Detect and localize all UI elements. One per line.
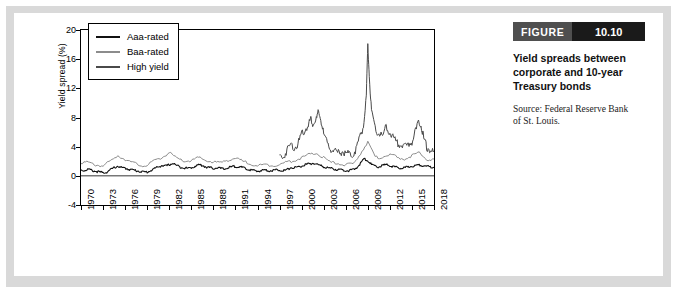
x-tick-mark [103, 206, 104, 210]
y-tick-label: 4 [50, 142, 76, 152]
figure-title: Yield spreads between corporate and 10-y… [513, 52, 633, 94]
figure-banner: FIGURE 10.10 [513, 22, 645, 41]
x-tick-label: 1970 [85, 189, 96, 210]
x-tick-label: 1979 [151, 189, 162, 210]
y-tick-mark [76, 59, 80, 60]
chart-legend: Aaa-rated Baa-rated High yield [88, 23, 179, 80]
x-tick-label: 1991 [239, 189, 250, 210]
y-tick-mark [76, 118, 80, 119]
x-tick-mark [368, 206, 369, 210]
x-tick-mark [324, 206, 325, 210]
y-tick-label: 16 [50, 54, 76, 64]
figure-container: Yield spread (%) -4048121620 19701973197… [0, 0, 677, 293]
y-tick-label: 0 [50, 171, 76, 181]
x-tick-label: 2012 [394, 189, 405, 210]
legend-item-aaa: Aaa-rated [96, 29, 169, 44]
legend-label-aaa: Aaa-rated [127, 31, 169, 42]
figure-number: 10.10 [572, 22, 645, 41]
x-tick-mark [147, 206, 148, 210]
legend-label-baa: Baa-rated [127, 46, 169, 57]
x-tick-mark [346, 206, 347, 210]
x-tick-label: 1985 [195, 189, 206, 210]
x-tick-label: 2015 [416, 189, 427, 210]
x-tick-mark [81, 206, 82, 210]
legend-item-high-yield: High yield [96, 59, 169, 74]
x-tick-mark [412, 206, 413, 210]
x-tick-label: 2000 [306, 189, 317, 210]
y-tick-label: -4 [50, 200, 76, 210]
y-tick-label: 20 [50, 25, 76, 35]
x-tick-label: 1988 [217, 189, 228, 210]
y-tick-mark [76, 176, 80, 177]
x-tick-label: 1997 [284, 189, 295, 210]
x-tick-label: 2003 [328, 189, 339, 210]
x-tick-mark [258, 206, 259, 210]
figure-source: Source: Federal Reserve Bank of St. Loui… [513, 103, 637, 127]
legend-swatch-baa [96, 51, 120, 53]
x-tick-label: 1973 [107, 189, 118, 210]
y-tick-label: 8 [50, 113, 76, 123]
legend-item-baa: Baa-rated [96, 44, 169, 59]
x-tick-mark [235, 206, 236, 210]
y-tick-mark [76, 30, 80, 31]
x-tick-label: 2006 [350, 189, 361, 210]
x-tick-label: 1994 [262, 189, 273, 210]
x-tick-label: 1976 [129, 189, 140, 210]
x-tick-label: 2009 [372, 189, 383, 210]
x-tick-mark [302, 206, 303, 210]
caption-panel: FIGURE 10.10 Yield spreads between corpo… [513, 22, 653, 127]
y-tick-mark [76, 205, 80, 206]
y-tick-label: 12 [50, 83, 76, 93]
x-tick-mark [191, 206, 192, 210]
legend-swatch-high-yield [96, 66, 120, 68]
x-tick-mark [169, 206, 170, 210]
chart-area: Yield spread (%) -4048121620 19701973197… [20, 13, 485, 263]
x-tick-label: 1982 [173, 189, 184, 210]
x-tick-mark [434, 206, 435, 210]
y-tick-mark [76, 147, 80, 148]
x-tick-mark [213, 206, 214, 210]
figure-word: FIGURE [513, 22, 572, 41]
y-tick-mark [76, 88, 80, 89]
x-tick-mark [390, 206, 391, 210]
legend-swatch-aaa [96, 36, 120, 38]
x-tick-mark [280, 206, 281, 210]
x-tick-mark [125, 206, 126, 210]
legend-label-high-yield: High yield [127, 61, 169, 72]
x-tick-label: 2018 [438, 189, 449, 210]
